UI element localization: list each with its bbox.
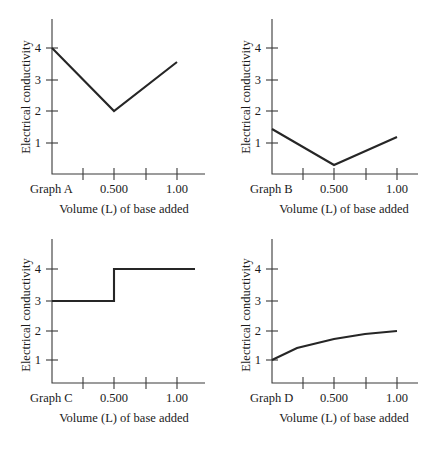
plot-area-graph-c: 4 3 2 1 0.500 1.00 Electrical conductivi… — [0, 227, 220, 455]
panel-title-graph-a: Graph A — [30, 182, 73, 196]
xtick-label-0500-graph-d: 0.500 — [320, 391, 348, 405]
xtick-label-100-graph-d: 1.00 — [386, 391, 408, 405]
ytick-label-2-graph-d: 2 — [255, 324, 261, 338]
ytick-label-4-graph-d: 4 — [255, 262, 262, 276]
panel-title-graph-d: Graph D — [250, 391, 293, 405]
xtick-label-0500-graph-b: 0.500 — [320, 182, 348, 196]
ytick-label-1-graph-c: 1 — [35, 353, 41, 367]
ytick-label-4-graph-b: 4 — [255, 41, 262, 55]
axes-graph-c — [52, 239, 205, 383]
x-axis-label-graph-c: Volume (L) of base added — [59, 411, 189, 425]
plot-area-graph-a: 4 3 2 1 0.500 1.00 Electrical conductivi… — [0, 0, 220, 228]
xtick-label-0500-graph-a: 0.500 — [100, 182, 128, 196]
panel-title-graph-c: Graph C — [30, 391, 73, 405]
x-axis-label-graph-d: Volume (L) of base added — [279, 411, 409, 425]
panel-graph-d: 4 3 2 1 0.500 1.00 Electrical conductivi… — [220, 227, 440, 455]
data-curve-graph-b — [272, 129, 397, 165]
ytick-label-3-graph-c: 3 — [35, 294, 41, 308]
x-axis-label-graph-b: Volume (L) of base added — [279, 202, 409, 216]
xtick-label-100-graph-a: 1.00 — [166, 182, 188, 196]
ytick-label-1-graph-d: 1 — [255, 353, 261, 367]
xtick-label-100-graph-b: 1.00 — [386, 182, 408, 196]
plot-area-graph-b: 4 3 2 1 0.500 1.00 Electrical conductivi… — [220, 0, 440, 228]
plot-area-graph-d: 4 3 2 1 0.500 1.00 Electrical conductivi… — [220, 227, 440, 455]
y-axis-label-graph-d: Electrical conductivity — [239, 258, 253, 372]
ytick-label-1-graph-b: 1 — [255, 136, 261, 150]
panel-graph-c: 4 3 2 1 0.500 1.00 Electrical conductivi… — [0, 227, 220, 455]
axes-graph-b — [272, 19, 418, 174]
panel-graph-a: 4 3 2 1 0.500 1.00 Electrical conductivi… — [0, 0, 220, 228]
ytick-label-2-graph-b: 2 — [255, 104, 261, 118]
ytick-label-1-graph-a: 1 — [35, 136, 41, 150]
data-curve-graph-c — [52, 269, 195, 301]
ytick-label-3-graph-a: 3 — [35, 73, 41, 87]
ytick-label-3-graph-d: 3 — [255, 294, 261, 308]
ytick-label-2-graph-c: 2 — [35, 324, 41, 338]
panel-graph-b: 4 3 2 1 0.500 1.00 Electrical conductivi… — [220, 0, 440, 228]
four-panel-conductivity-figure: 4 3 2 1 0.500 1.00 Electrical conductivi… — [0, 0, 441, 455]
axes-graph-a — [52, 19, 205, 174]
y-axis-label-graph-a: Electrical conductivity — [19, 40, 33, 154]
data-curve-graph-a — [52, 48, 177, 111]
xtick-label-0500-graph-c: 0.500 — [100, 391, 128, 405]
xtick-label-100-graph-c: 1.00 — [166, 391, 188, 405]
data-curve-graph-d — [272, 331, 397, 360]
x-axis-label-graph-a: Volume (L) of base added — [59, 202, 189, 216]
ytick-label-2-graph-a: 2 — [35, 104, 41, 118]
y-axis-label-graph-b: Electrical conductivity — [239, 40, 253, 154]
axes-graph-d — [272, 239, 418, 383]
y-axis-label-graph-c: Electrical conductivity — [19, 258, 33, 372]
ytick-label-4-graph-a: 4 — [35, 41, 42, 55]
panel-title-graph-b: Graph B — [250, 182, 293, 196]
ytick-label-4-graph-c: 4 — [35, 262, 42, 276]
ytick-label-3-graph-b: 3 — [255, 73, 261, 87]
